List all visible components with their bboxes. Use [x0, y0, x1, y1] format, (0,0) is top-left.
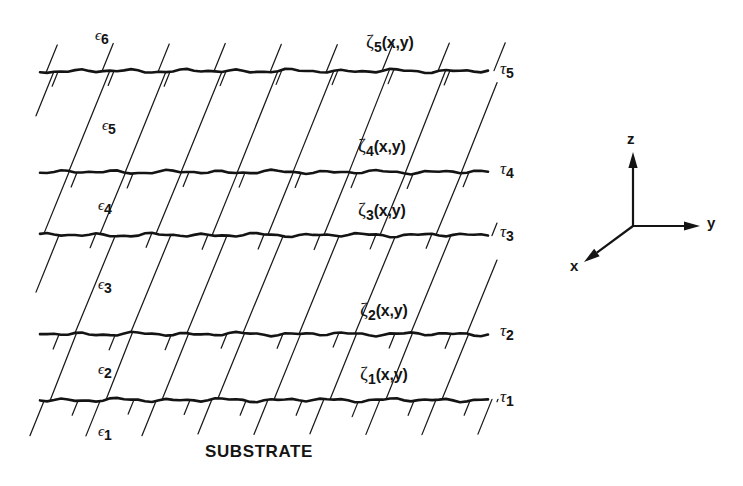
hatch-tick-bottom [366, 400, 380, 435]
interface-curve-tau-5 [40, 69, 488, 73]
coordinate-axes [584, 152, 700, 262]
interface-subscript: 1 [506, 393, 514, 409]
axis-label-z: z [627, 131, 635, 146]
roughness-subscript: 2 [368, 307, 376, 323]
hatch-whisker [165, 335, 171, 349]
interface-label-tau-5: τ5 [500, 60, 514, 80]
axis-y-arrowhead [684, 221, 700, 230]
hatch-whisker [296, 401, 302, 415]
permittivity-subscript: 5 [108, 121, 116, 137]
interface-subscript: 5 [506, 65, 514, 81]
roughness-subscript: 3 [366, 207, 374, 223]
hatch-line [131, 235, 171, 332]
hatch-line [293, 71, 334, 172]
permittivity-label-4: ϵ4 [98, 198, 112, 216]
interface-label-tau-4: τ4 [500, 160, 514, 180]
interface-subscript: 2 [506, 327, 514, 343]
figure-root: ϵ6 ϵ5 ϵ4 ϵ3 ϵ2 ϵ1 τ5 τ4 τ3 τ2 τ1 ζ5(x,y)… [0, 0, 743, 486]
hatch-whisker [240, 401, 246, 415]
hatch-whisker [314, 235, 320, 249]
hatch-line [162, 333, 189, 399]
hatch-line [467, 260, 497, 333]
hatch-line [299, 236, 339, 334]
hatch-whisker [239, 173, 245, 187]
hatch-line [237, 71, 278, 173]
hatch-tick-top [158, 44, 169, 72]
hatch-line [268, 172, 293, 235]
hatch-whisker [407, 174, 413, 188]
roughness-arguments: (x,y) [374, 202, 406, 219]
hatch-whisker [71, 173, 77, 187]
hatch-whisker [53, 335, 59, 349]
interface-curve-tau-2 [40, 332, 488, 337]
hatch-line [411, 235, 451, 332]
roughness-arguments: (x,y) [374, 138, 406, 155]
roughness-subscript: 5 [374, 39, 382, 55]
roughness-subscript: 4 [366, 143, 374, 159]
hatch-whisker [389, 334, 395, 348]
axis-z-arrowhead [628, 152, 637, 168]
hatch-line [497, 399, 498, 401]
hatch-line [125, 72, 166, 173]
interface-label-tau-2: τ2 [500, 322, 514, 342]
hatch-line [50, 333, 77, 401]
hatch-line [212, 173, 237, 236]
layer-stack-drawing [0, 0, 743, 486]
hatch-tick-top [46, 45, 57, 73]
substrate-label: SUBSTRATE [205, 443, 313, 460]
interface-curve-tau-3 [40, 233, 488, 237]
roughness-symbol: ζ [360, 299, 368, 320]
interface-label-tau-3: τ3 [500, 223, 514, 243]
hatch-line [187, 236, 227, 334]
hatch-line [461, 83, 497, 174]
roughness-label-zeta-2: ζ2(x,y) [360, 300, 408, 322]
hatch-tick-bottom [478, 399, 492, 434]
roughness-symbol: ζ [360, 363, 368, 384]
hatch-line [181, 72, 222, 172]
roughness-subscript: 1 [368, 371, 376, 387]
hatch-tick-top [102, 43, 113, 71]
hatch-line [156, 172, 181, 234]
hatch-line [436, 173, 461, 235]
hatch-line [442, 334, 469, 399]
roughness-symbol: ζ [358, 199, 366, 220]
hatch-whisker [426, 234, 432, 248]
permittivity-label-2: ϵ2 [98, 362, 112, 380]
permittivity-subscript: 4 [104, 201, 112, 217]
hatch-line [405, 70, 446, 173]
hatch-whisker [258, 235, 264, 249]
hatch-whisker [127, 173, 133, 187]
axis-label-x: x [570, 258, 578, 273]
hatch-line [243, 236, 283, 333]
hatch-whisker [463, 172, 469, 186]
permittivity-label-1: ϵ1 [98, 424, 112, 442]
roughness-arguments: (x,y) [376, 302, 408, 319]
roughness-label-zeta-4: ζ4(x,y) [358, 136, 406, 158]
hatch-tick-top [214, 43, 225, 71]
hatch-tick-bottom [422, 400, 436, 435]
hatch-tick-top [438, 43, 449, 71]
permittivity-label-5: ϵ5 [102, 118, 116, 136]
hatch-whisker [352, 402, 358, 416]
hatch-tick-top [326, 45, 337, 73]
axis-x-arrowhead [584, 249, 600, 262]
permittivity-subscript: 6 [101, 31, 109, 47]
hatch-line [44, 171, 69, 233]
hatch-whisker [295, 173, 301, 187]
permittivity-label-6: ϵ6 [95, 28, 109, 46]
hatch-whisker [109, 335, 115, 349]
hatch-line [324, 172, 349, 235]
roughness-arguments: (x,y) [382, 34, 414, 51]
permittivity-subscript: 2 [104, 365, 112, 381]
hatch-tick-top [270, 44, 281, 72]
roughness-label-zeta-5: ζ5(x,y) [366, 32, 414, 54]
permittivity-subscript: 1 [104, 427, 112, 443]
hatch-whisker [146, 233, 152, 247]
hatch-line [36, 235, 59, 292]
hatch-tick-bottom [310, 399, 324, 434]
permittivity-label-3: ϵ3 [98, 277, 112, 295]
interface-subscript: 4 [506, 165, 514, 181]
roughness-symbol: ζ [358, 135, 366, 156]
hatch-tick-bottom [254, 400, 268, 435]
hatch-whisker [183, 172, 189, 186]
